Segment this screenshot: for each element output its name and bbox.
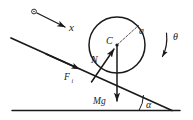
label-theta: θ xyxy=(173,31,178,42)
label-friction-subscript: i xyxy=(72,78,74,84)
label-radius-a: a xyxy=(139,25,144,36)
label-center-c: C xyxy=(106,35,113,46)
label-x-axis: x xyxy=(68,21,74,33)
label-friction-f: F xyxy=(63,72,70,82)
label-alpha: α xyxy=(146,99,152,110)
diagram-canvas: x C a θ N F i Mg α xyxy=(0,0,193,120)
friction-arrow xyxy=(46,54,76,68)
label-weight-mg: Mg xyxy=(92,96,106,106)
radius-dashed-line xyxy=(117,26,139,46)
physics-diagram-figure: x C a θ N F i Mg α xyxy=(0,0,193,120)
x-axis-origin-center-dot xyxy=(33,11,34,12)
label-normal-n: N xyxy=(90,54,99,65)
theta-rotation-arrow xyxy=(163,33,167,57)
theta-reference-arc xyxy=(152,24,156,56)
x-axis-arrow xyxy=(37,13,65,27)
